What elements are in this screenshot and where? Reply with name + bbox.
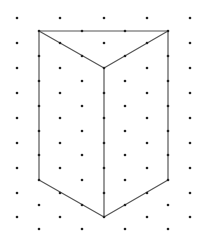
grid-dot: [146, 17, 149, 20]
grid-dot: [103, 17, 106, 20]
grid-dot: [124, 80, 127, 83]
grid-dot: [81, 154, 84, 157]
grid-dot: [124, 179, 127, 182]
grid-dot: [189, 92, 192, 95]
grid-dot: [81, 179, 84, 182]
grid-dot: [189, 167, 192, 170]
grid-dot: [59, 17, 62, 20]
grid-dot: [146, 192, 149, 195]
grid-dot: [167, 130, 170, 133]
grid-dot: [146, 142, 149, 145]
grid-dot: [59, 42, 62, 45]
grid-dot: [16, 216, 19, 219]
grid-dot: [59, 192, 62, 195]
grid-dot: [167, 105, 170, 108]
grid-dot: [167, 55, 170, 58]
grid-dot: [38, 204, 41, 207]
grid-dot: [38, 154, 41, 157]
grid-dot: [103, 142, 106, 145]
grid-dot: [16, 67, 19, 70]
grid-dot: [59, 92, 62, 95]
grid-dot: [103, 216, 106, 219]
grid-dot: [103, 92, 106, 95]
grid-dot: [16, 42, 19, 45]
grid-dot: [167, 30, 170, 33]
grid-dot: [81, 130, 84, 133]
grid-dot: [146, 42, 149, 45]
grid-dot: [167, 204, 170, 207]
grid-dot: [124, 55, 127, 58]
grid-dot: [103, 42, 106, 45]
background: [0, 0, 212, 243]
grid-dot: [81, 30, 84, 33]
grid-dot: [189, 42, 192, 45]
grid-dot: [81, 55, 84, 58]
grid-dot: [38, 80, 41, 83]
grid-dot: [59, 117, 62, 120]
grid-dot: [38, 179, 41, 182]
grid-dot: [38, 55, 41, 58]
grid-dot: [59, 216, 62, 219]
grid-dot: [124, 228, 127, 231]
grid-dot: [81, 105, 84, 108]
grid-dot: [16, 92, 19, 95]
grid-dot: [103, 192, 106, 195]
grid-dot: [146, 67, 149, 70]
grid-dot: [59, 67, 62, 70]
grid-dot: [103, 117, 106, 120]
grid-dot: [146, 92, 149, 95]
grid-dot: [124, 30, 127, 33]
grid-dot: [38, 228, 41, 231]
grid-dot: [103, 67, 106, 70]
grid-dot: [189, 192, 192, 195]
grid-dot: [189, 216, 192, 219]
grid-dot: [81, 204, 84, 207]
grid-dot: [189, 67, 192, 70]
grid-dot: [16, 142, 19, 145]
grid-dot: [16, 167, 19, 170]
isometric-dot-diagram: [0, 0, 212, 243]
grid-dot: [167, 228, 170, 231]
grid-dot: [124, 204, 127, 207]
grid-dot: [38, 105, 41, 108]
grid-dot: [189, 142, 192, 145]
grid-dot: [103, 167, 106, 170]
grid-dot: [146, 216, 149, 219]
grid-dot: [167, 80, 170, 83]
grid-dot: [59, 167, 62, 170]
grid-dot: [38, 30, 41, 33]
grid-dot: [189, 117, 192, 120]
grid-dot: [146, 167, 149, 170]
grid-dot: [124, 130, 127, 133]
grid-dot: [16, 117, 19, 120]
grid-dot: [167, 154, 170, 157]
grid-dot: [124, 105, 127, 108]
grid-dot: [146, 117, 149, 120]
grid-dot: [16, 17, 19, 20]
grid-dot: [81, 80, 84, 83]
grid-dot: [189, 17, 192, 20]
grid-dot: [81, 228, 84, 231]
grid-dot: [38, 130, 41, 133]
grid-dot: [124, 154, 127, 157]
grid-dot: [16, 192, 19, 195]
grid-dot: [59, 142, 62, 145]
grid-dot: [167, 179, 170, 182]
